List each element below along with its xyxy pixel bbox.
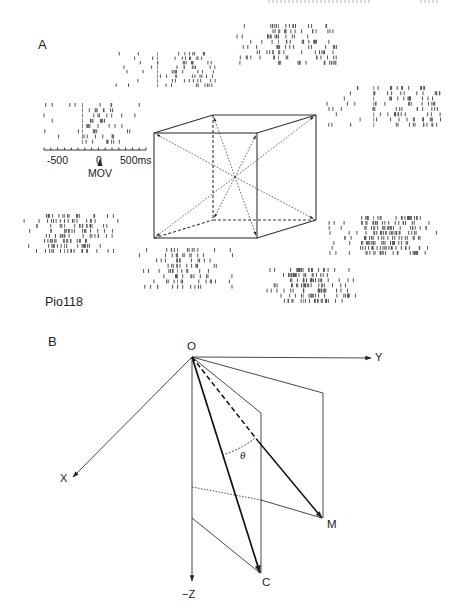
point-c-label: C [262,577,270,589]
raster-bottom-left [24,214,119,253]
y-axis-label: Y [375,352,382,363]
cell-id-label: Pio118 [45,296,83,309]
panel-a-label: A [38,38,47,51]
spike-rasters [24,24,441,303]
direction-arrow-front-bottom-left [156,177,235,236]
raster-bottom-right [329,216,437,255]
raster-back-top-left [116,52,216,87]
angle-theta-arc [222,438,255,455]
direction-arrow-back-bottom-right [235,177,313,219]
direction-arrow-back-top-left [214,118,235,177]
origin-label: O [187,341,196,353]
cropped-page-number-fragment [420,0,438,3]
direction-arrow-front-top-left [157,134,235,177]
movement-onset-label: MOV [88,168,112,179]
tick-label-500ms: 500ms [120,155,152,166]
direction-arrow-front-bottom-right [235,177,256,235]
direction-arrow-back-top-right [235,117,314,177]
vector-c [192,357,260,573]
tick-label-neg500: -500 [47,155,68,166]
movement-direction-arrows [156,117,313,236]
time-scale-bar [44,148,146,151]
point-m-label: M [327,519,337,531]
vector-m [258,441,322,518]
cube-front-face [154,133,257,238]
y-axis [192,357,371,358]
x-axis [73,357,192,477]
panel-b-label: B [48,335,57,348]
vector-m-hidden [192,357,258,441]
raster-back-top-right [237,24,337,65]
raster-bottom-center-left [139,248,233,289]
direction-arrow-front-top-right [235,136,256,177]
x-axis-label: X [60,473,67,484]
plane-m [192,357,323,518]
z-axis-label: −Z [182,589,195,600]
raster-bottom-center-right [267,268,356,303]
tick-label-0: 0 [96,155,102,166]
raster-left [44,103,140,144]
cropped-header-fragment [268,0,370,3]
angle-theta-label: θ [240,450,245,461]
raster-right [327,86,442,127]
vector-geometry-diagram [73,357,371,581]
direction-arrow-back-bottom-left [214,177,235,217]
